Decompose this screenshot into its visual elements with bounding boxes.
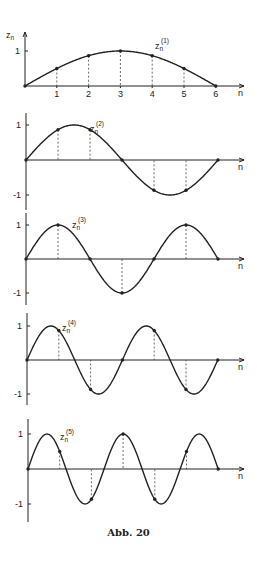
data-point [120, 291, 123, 294]
data-point [55, 67, 58, 70]
data-point [24, 158, 27, 161]
x-tick-label: 5 [181, 89, 186, 99]
data-point [121, 432, 124, 435]
panel-mode-5: n1-1zn(5) [15, 419, 244, 522]
data-point [88, 257, 91, 260]
y-tick-label: 1 [16, 120, 21, 130]
data-point [217, 467, 220, 470]
y-tick-label: -1 [13, 288, 21, 298]
data-point [152, 189, 155, 192]
data-point [216, 158, 219, 161]
y-tick-label: 1 [18, 429, 23, 439]
y-tick-label: -1 [13, 190, 21, 200]
y-axis-label: zn [6, 30, 15, 41]
data-point [26, 467, 29, 470]
x-axis-label: n [238, 261, 243, 271]
data-point [182, 67, 185, 70]
data-point [56, 128, 59, 131]
y-tick-label: 1 [15, 46, 20, 56]
panel-mode-2: n1-1zn(2) [13, 113, 244, 210]
x-tick-label: 3 [118, 89, 123, 99]
x-axis-label: n [238, 362, 243, 372]
data-point [184, 388, 187, 391]
data-point [24, 257, 27, 260]
panel-mode-4: n1-1zn(4) [14, 313, 244, 405]
y-tick-label: -1 [15, 499, 23, 509]
data-point [58, 450, 61, 453]
data-point [23, 84, 26, 87]
x-axis-label: n [238, 162, 243, 172]
y-tick-label: 1 [17, 321, 22, 331]
data-point [153, 329, 156, 332]
data-point [25, 358, 28, 361]
curve-label-superscript: (3) [78, 216, 86, 224]
x-tick-label: 1 [54, 89, 59, 99]
data-point [214, 84, 217, 87]
data-point [57, 329, 60, 332]
curve-label-superscript: (2) [96, 120, 104, 128]
data-point [216, 358, 219, 361]
y-tick-label: -1 [14, 389, 22, 399]
data-point [184, 189, 187, 192]
panel-mode-1: n1zn123456zn(1) [6, 30, 244, 99]
data-point [56, 223, 59, 226]
data-point [184, 223, 187, 226]
data-point [185, 450, 188, 453]
data-point [151, 54, 154, 57]
figure-sine-modes: n1zn123456zn(1)n1-1zn(2)n1-1zn(3)n1-1zn(… [0, 0, 257, 565]
curve-label-superscript: (1) [161, 37, 169, 45]
figure-caption: Abb. 20 [0, 527, 257, 538]
data-point [153, 498, 156, 501]
data-point [87, 54, 90, 57]
x-tick-label: 4 [150, 89, 155, 99]
x-axis-label: n [238, 88, 243, 98]
x-tick-label: 6 [213, 89, 218, 99]
data-point [119, 49, 122, 52]
data-point [216, 257, 219, 260]
data-point [120, 158, 123, 161]
data-point [89, 388, 92, 391]
x-tick-label: 2 [86, 89, 91, 99]
data-point [121, 358, 124, 361]
data-point [90, 498, 93, 501]
panel-mode-3: n1-1zn(3) [13, 213, 244, 305]
curve-label-superscript: (4) [68, 319, 76, 327]
data-point [152, 257, 155, 260]
curve-label-superscript: (5) [66, 428, 74, 436]
x-axis-label: n [238, 471, 243, 481]
y-tick-label: 1 [16, 220, 21, 230]
